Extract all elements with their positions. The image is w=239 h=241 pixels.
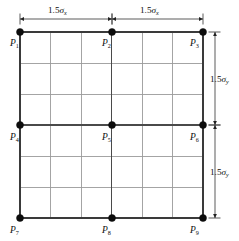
dim-right-lower-label: 1.5σy: [210, 167, 229, 178]
node-marker-p2: [109, 29, 116, 36]
dimension-arrow-head: [213, 32, 217, 36]
node-label-p3: P3: [189, 38, 199, 49]
node-labels: P1P2P3P4P5P6P7P8P9: [9, 38, 199, 236]
grid-node-diagram: P1P2P3P4P5P6P7P8P9 1.5σx1.5σx1.5σy1.5σy: [0, 0, 239, 241]
dimension-arrow-head: [213, 121, 217, 125]
node-marker-p7: [17, 215, 24, 222]
node-label-p7: P7: [9, 225, 19, 236]
node-marker-p8: [109, 215, 116, 222]
node-label-p6: P6: [189, 132, 199, 143]
node-marker-p9: [200, 215, 207, 222]
dimension-arrow-head: [213, 214, 217, 218]
node-label-p9: P9: [189, 225, 199, 236]
node-label-p2: P2: [101, 38, 111, 49]
node-label-p8: P8: [101, 225, 111, 236]
node-label-p1: P1: [9, 38, 19, 49]
node-label-p5: P5: [101, 132, 111, 143]
node-marker-p5: [109, 122, 116, 129]
dimension-arrow-head: [112, 17, 116, 21]
node-marker-p1: [17, 29, 24, 36]
node-marker-p4: [17, 122, 24, 129]
dimension-arrow-head: [213, 125, 217, 129]
dim-top-right-label: 1.5σx: [140, 5, 159, 16]
dim-top-left-label: 1.5σx: [48, 5, 67, 16]
figure-container: P1P2P3P4P5P6P7P8P9 1.5σx1.5σx1.5σy1.5σy: [0, 0, 239, 241]
dimension-arrow-head: [108, 17, 112, 21]
node-marker-p6: [200, 122, 207, 129]
dimension-arrow-head: [20, 17, 24, 21]
dimension-arrow-head: [199, 17, 203, 21]
node-marker-p3: [200, 29, 207, 36]
dim-right-upper-label: 1.5σy: [210, 74, 229, 85]
node-label-p4: P4: [9, 132, 19, 143]
